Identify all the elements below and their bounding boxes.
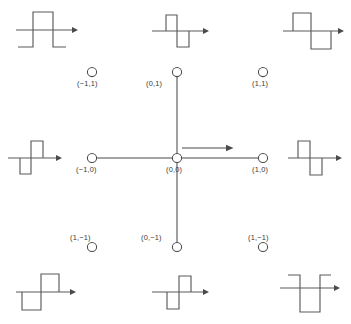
translation-arrow xyxy=(182,145,234,152)
waveform-middle-left xyxy=(8,141,62,174)
node-label-1-0: (1,0) xyxy=(252,166,268,173)
translation-arrow-head xyxy=(226,145,234,152)
waveform-middle-right-axis-arrow xyxy=(336,155,342,161)
waveform-middle-left-axis-arrow xyxy=(56,155,62,161)
waveform-bottom-right xyxy=(280,275,340,312)
waveform-top-middle xyxy=(152,15,209,47)
node-marker-minus1-1[interactable] xyxy=(87,67,96,76)
waveform-bottom-right-axis-arrow xyxy=(334,285,340,291)
node-label-1-minus1: (1,−1) xyxy=(248,234,269,241)
figure-canvas xyxy=(0,0,351,324)
node-marker-0-minus1[interactable] xyxy=(172,242,181,251)
node-marker-1-1[interactable] xyxy=(258,67,267,76)
waveform-top-middle-axis-arrow xyxy=(203,28,209,34)
node-label-minus1-minus1: (1,−1) xyxy=(70,234,91,241)
node-label-1-1: (1,1) xyxy=(252,80,268,87)
node-label-0-0: (0,0) xyxy=(166,166,182,173)
node-label-minus1-1: (−1,1) xyxy=(77,80,98,87)
waveform-top-left xyxy=(16,12,78,47)
waveform-top-right-axis-arrow xyxy=(338,28,344,34)
waveform-top-left-axis-arrow xyxy=(72,27,78,33)
lattice-waveform-figure: (−1,1) (0,1) (1,1) (−1,0) (0,0) (1,0) (1… xyxy=(0,0,351,324)
waveform-bottom-middle-axis-arrow xyxy=(203,289,209,295)
waveform-middle-right xyxy=(288,141,342,175)
node-label-minus1-0: (−1,0) xyxy=(76,166,97,173)
waveform-bottom-middle xyxy=(152,276,209,309)
node-marker-0-0[interactable] xyxy=(172,153,181,162)
node-label-0-1: (0,1) xyxy=(146,80,162,87)
waveform-bottom-left-axis-arrow xyxy=(70,289,76,295)
node-marker-minus1-0[interactable] xyxy=(87,153,96,162)
waveform-bottom-right-trace xyxy=(288,275,331,312)
node-marker-minus1-minus1[interactable] xyxy=(87,242,96,251)
node-marker-1-minus1[interactable] xyxy=(258,242,267,251)
waveform-bottom-left xyxy=(16,274,76,310)
node-marker-0-1[interactable] xyxy=(172,67,181,76)
node-marker-1-0[interactable] xyxy=(258,153,267,162)
waveform-top-right xyxy=(283,13,344,49)
node-label-0-minus1: (0,−1) xyxy=(141,234,162,241)
